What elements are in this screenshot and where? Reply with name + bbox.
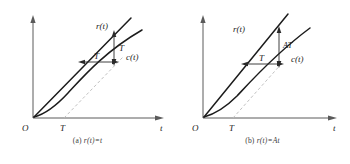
response-label-b: c(t)	[291, 54, 304, 64]
asymptote-line-b	[233, 62, 283, 118]
horizontal-dimension-label-a: T	[94, 51, 100, 61]
horizontal-dimension-arrow-left-a	[78, 60, 85, 65]
origin-label-b: O	[192, 123, 199, 133]
vertical-dimension-label-a: T	[119, 43, 125, 53]
y-axis-arrowhead-b	[200, 15, 205, 23]
caption-prefix-b: (b)	[245, 136, 254, 145]
x-tick-label-b: T	[229, 123, 235, 133]
horizontal-dimension-label-b: T	[259, 53, 265, 63]
x-axis-arrowhead-b	[328, 115, 337, 120]
caption-formula-b: r(t)=At	[257, 136, 280, 145]
figure-root: r(t) c(t) T T O T t (a) r(t)=t	[0, 0, 350, 164]
figure-panel-b: r(t) c(t) AT T O T t (b) r(t)=At	[175, 0, 350, 164]
caption-formula-a: r(t)=t	[84, 136, 102, 145]
response-curve-b	[204, 28, 310, 117]
ramp-label-b: r(t)	[233, 24, 245, 34]
plot-a: r(t) c(t) T T O T t	[0, 0, 175, 140]
response-curve-a	[34, 30, 142, 117]
ramp-label-a: r(t)	[96, 21, 108, 31]
vertical-dimension-label-b: AT	[282, 41, 294, 50]
x-axis-arrowhead-a	[155, 115, 164, 120]
y-axis-arrowhead-a	[30, 15, 35, 23]
caption-prefix-a: (a)	[73, 136, 82, 145]
caption-b: (b) r(t)=At	[175, 136, 350, 145]
response-label-a: c(t)	[126, 52, 139, 62]
figure-panel-a: r(t) c(t) T T O T t (a) r(t)=t	[0, 0, 175, 164]
x-axis-label-a: t	[160, 123, 163, 133]
plot-b: r(t) c(t) AT T O T t	[175, 0, 350, 140]
horizontal-dimension-arrow-left-b	[241, 62, 248, 67]
caption-a: (a) r(t)=t	[0, 136, 175, 145]
x-axis-label-b: t	[333, 123, 336, 133]
x-tick-label-a: T	[60, 123, 66, 133]
ramp-curve-a	[34, 18, 131, 117]
origin-label-a: O	[22, 123, 29, 133]
